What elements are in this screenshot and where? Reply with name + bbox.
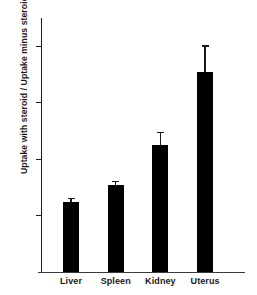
- y-axis-tick: [36, 215, 42, 216]
- error-bar-stem-uterus: [204, 45, 205, 72]
- plot-area: 1.02.03.04.0LiverSpleenKidneyUterus: [0, 0, 257, 295]
- bar-chart-figure: Uptake with steroid / Uptake minus stero…: [0, 0, 257, 295]
- y-axis-tick: [36, 46, 42, 47]
- bar-spleen: [108, 185, 124, 272]
- bar-liver: [63, 202, 79, 272]
- bar-kidney: [152, 145, 168, 272]
- x-axis-label-uterus: Uterus: [179, 276, 231, 286]
- error-bar-cap-kidney: [157, 132, 164, 133]
- error-bar-stem-kidney: [160, 132, 161, 145]
- bar-uterus: [197, 72, 213, 272]
- y-axis-tick: [36, 159, 42, 160]
- error-bar-cap-liver: [68, 198, 75, 199]
- y-axis-tick: [36, 102, 42, 103]
- error-bar-cap-spleen: [112, 181, 119, 182]
- error-bar-cap-uterus: [202, 45, 209, 46]
